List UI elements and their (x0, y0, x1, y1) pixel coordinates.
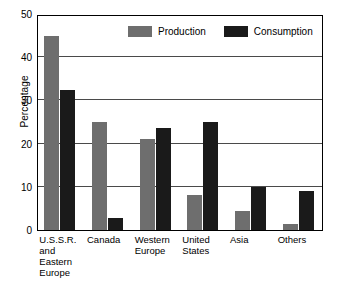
bar-production (44, 36, 59, 230)
legend-label: Production (158, 26, 206, 37)
bar-consumption (203, 122, 218, 230)
y-tick-label: 20 (12, 140, 32, 150)
legend-swatch-production (128, 26, 152, 37)
bar-production (92, 122, 107, 230)
x-tick-label: U.S.S.R. and Eastern Europe (39, 234, 76, 278)
legend-label: Consumption (254, 26, 313, 37)
bar-group (140, 16, 171, 230)
legend-item: Consumption (224, 26, 313, 37)
bar-production (140, 139, 155, 230)
y-axis-tick-labels: 01020304050 (10, 0, 32, 289)
legend-swatch-consumption (224, 26, 248, 37)
bar-production (235, 211, 250, 230)
bar-chart: Percentage 01020304050 ProductionConsump… (0, 0, 339, 289)
y-tick-label: 0 (12, 226, 32, 236)
y-tick-label: 50 (12, 10, 32, 20)
y-tick-label: 40 (12, 53, 32, 63)
x-tick-label: Western Europe (135, 234, 170, 256)
bar-group (283, 16, 314, 230)
chart-legend: ProductionConsumption (128, 26, 313, 37)
bar-group (235, 16, 266, 230)
x-tick-label: Others (278, 234, 307, 245)
bar-group (44, 16, 75, 230)
bar-consumption (108, 218, 123, 230)
bar-consumption (60, 90, 75, 230)
legend-item: Production (128, 26, 206, 37)
x-tick-label: Asia (230, 234, 248, 245)
bar-production (283, 224, 298, 230)
x-tick-label: United States (182, 234, 209, 256)
y-tick-label: 30 (12, 96, 32, 106)
plot-area (37, 15, 323, 231)
x-tick-label: Canada (87, 234, 120, 245)
bar-consumption (251, 187, 266, 230)
y-tick-label: 10 (12, 183, 32, 193)
bar-consumption (299, 191, 314, 230)
bar-group (92, 16, 123, 230)
x-axis-tick-labels: U.S.S.R. and Eastern EuropeCanadaWestern… (37, 234, 323, 289)
bars-layer (38, 16, 322, 230)
bar-group (187, 16, 218, 230)
bar-production (187, 195, 202, 230)
bar-consumption (156, 128, 171, 230)
